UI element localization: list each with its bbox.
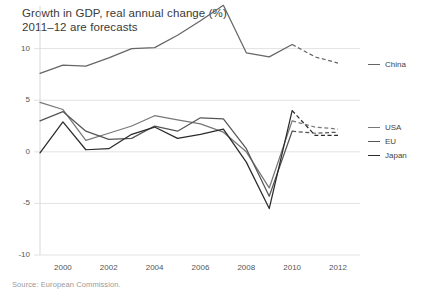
legend-item-china[interactable]: China [368, 60, 406, 69]
series-forecast-usa [292, 121, 338, 129]
gdp-growth-chart: Growth in GDP, real annual change (%) 20… [0, 0, 421, 296]
x-tick-label: 2004 [135, 263, 175, 272]
plot-area [0, 0, 421, 296]
legend-label: EU [385, 137, 396, 146]
legend-swatch-icon [368, 155, 380, 156]
x-tick-label: 2002 [89, 263, 129, 272]
series-forecast-eu [292, 131, 338, 133]
y-tick-label: -5 [6, 198, 30, 207]
x-tick-label: 2006 [180, 263, 220, 272]
x-tick-label: 2008 [226, 263, 266, 272]
legend-swatch-icon [368, 64, 380, 65]
legend-item-eu[interactable]: EU [368, 137, 396, 146]
series-line-eu [40, 112, 292, 197]
x-tick-label: 2012 [318, 263, 358, 272]
x-tick-label: 2010 [272, 263, 312, 272]
legend-item-japan[interactable]: Japan [368, 151, 407, 160]
x-tick-label: 2000 [43, 263, 83, 272]
legend-swatch-icon [368, 127, 380, 128]
series-line-japan [40, 111, 292, 209]
y-tick-label: -10 [6, 250, 30, 259]
series-forecast-china [292, 45, 338, 64]
series-line-china [40, 5, 292, 73]
series-line-usa [40, 102, 292, 188]
y-tick-label: 5 [6, 95, 30, 104]
legend-label: Japan [385, 151, 407, 160]
source-note: Source: European Commission. [12, 280, 121, 289]
y-tick-label: 10 [6, 44, 30, 53]
legend-label: China [385, 60, 406, 69]
legend-item-usa[interactable]: USA [368, 123, 401, 132]
legend-label: USA [385, 123, 401, 132]
legend-swatch-icon [368, 141, 380, 142]
y-tick-label: 0 [6, 147, 30, 156]
